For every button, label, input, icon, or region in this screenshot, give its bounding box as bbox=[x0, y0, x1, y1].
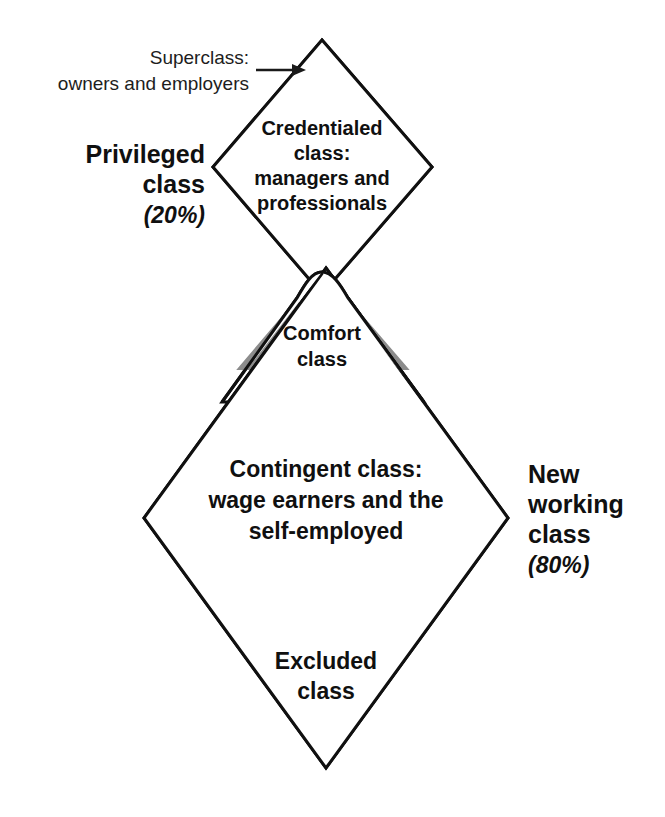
excluded-class-line2: class bbox=[297, 678, 355, 704]
new-working-class-line2: working bbox=[527, 490, 624, 518]
contingent-class-line1: Contingent class: bbox=[230, 456, 423, 482]
diagram-canvas: Superclass: owners and employers Credent… bbox=[0, 0, 665, 817]
class-structure-diagram: Superclass: owners and employers Credent… bbox=[0, 0, 665, 817]
privileged-class-line2: class bbox=[142, 170, 205, 198]
superclass-callout-line1: Superclass: bbox=[150, 47, 249, 68]
credentialed-class-line4: professionals bbox=[257, 192, 387, 214]
new-working-class-percent: (80%) bbox=[528, 552, 589, 578]
comfort-class-line2: class bbox=[297, 348, 347, 370]
new-working-class-line1: New bbox=[528, 460, 580, 488]
credentialed-class-line3: managers and bbox=[254, 167, 390, 189]
superclass-callout-line2: owners and employers bbox=[58, 73, 249, 94]
comfort-class-line1: Comfort bbox=[283, 322, 361, 344]
privileged-class-percent: (20%) bbox=[144, 202, 205, 228]
new-working-class-line3: class bbox=[528, 520, 591, 548]
contingent-class-line3: self-employed bbox=[249, 518, 404, 544]
contingent-class-line2: wage earners and the bbox=[207, 487, 443, 513]
credentialed-class-line2: class: bbox=[294, 142, 351, 164]
credentialed-class-line1: Credentialed bbox=[261, 117, 382, 139]
excluded-class-line1: Excluded bbox=[275, 648, 377, 674]
privileged-class-line1: Privileged bbox=[86, 140, 206, 168]
